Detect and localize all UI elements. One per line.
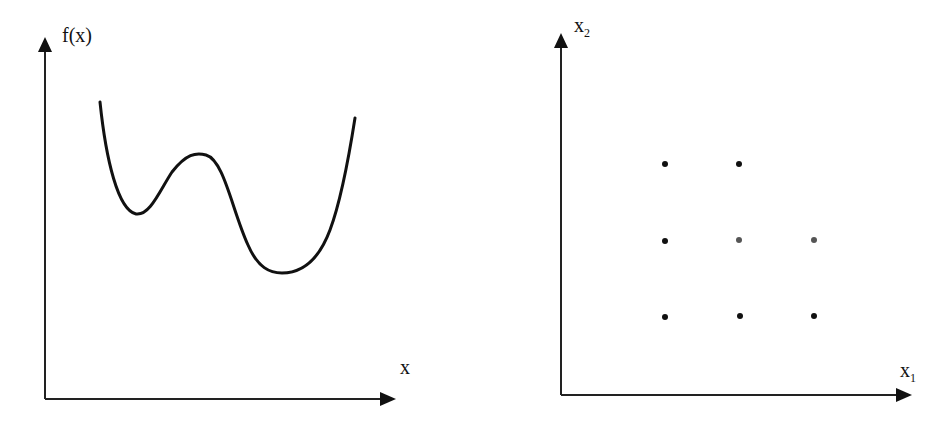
- left-y-axis-arrow-icon: [38, 37, 52, 52]
- function-plot-panel: f(x) x: [38, 24, 410, 406]
- grid-point: [662, 238, 668, 244]
- grid-point: [737, 313, 743, 319]
- x-axis-label: x: [400, 356, 410, 378]
- left-x-axis-arrow-icon: [380, 392, 396, 406]
- grid-point: [811, 313, 817, 319]
- grid-point: [662, 161, 668, 167]
- grid-point: [736, 161, 742, 167]
- x2-axis-label: x2: [574, 14, 590, 40]
- x1-axis-label: x1: [900, 359, 916, 385]
- right-x-axis-arrow-icon: [896, 388, 912, 402]
- grid-point: [811, 237, 817, 243]
- right-y-axis-arrow-icon: [554, 33, 568, 48]
- function-curve: [100, 102, 355, 273]
- fx-axis-label: f(x): [62, 24, 92, 47]
- grid-point: [736, 237, 742, 243]
- grid-points: [662, 161, 817, 320]
- diagram-canvas: f(x) x x2 x1: [0, 0, 945, 424]
- grid-points-panel: x2 x1: [554, 14, 916, 402]
- grid-point: [662, 314, 668, 320]
